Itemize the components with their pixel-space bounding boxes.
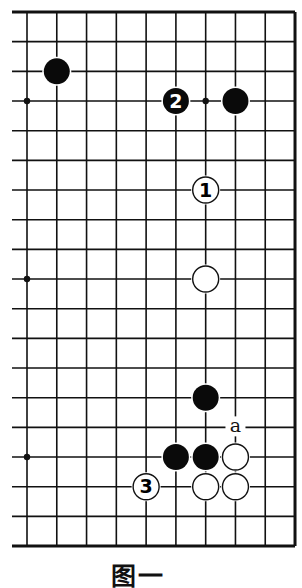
star-point [202,98,208,104]
white-stone [221,472,250,501]
star-point [24,454,30,460]
markers-layer: a [225,414,245,436]
black-stone [161,443,190,472]
white-stone [191,265,220,294]
point-marker-a: a [225,414,245,436]
move-number: 3 [140,475,153,497]
white-stone-1: 1 [191,176,220,205]
black-stone [191,383,220,412]
star-point [24,98,30,104]
board-grid [12,12,295,546]
white-stone-3: 3 [132,472,161,501]
move-number: 1 [199,179,212,201]
star-point [24,276,30,282]
white-stone [221,443,250,472]
black-stone [221,87,250,116]
go-board: 213 a [0,0,302,552]
figure-caption: 图一 [0,556,275,588]
move-number: 2 [169,90,182,112]
black-stone [191,443,220,472]
black-stone-2: 2 [161,87,190,116]
svg-text:a: a [230,414,241,436]
black-stone [42,57,71,86]
white-stone [191,472,220,501]
